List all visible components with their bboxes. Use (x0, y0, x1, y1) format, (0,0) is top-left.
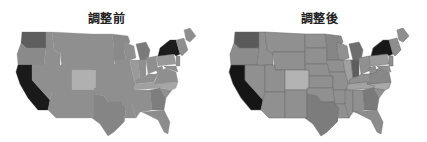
figure: 調整前 調整後 (0, 0, 427, 142)
state-nj (176, 56, 180, 66)
state-mi (136, 42, 150, 60)
state-az (48, 92, 72, 118)
state-nj (389, 56, 393, 66)
state-nd (92, 34, 114, 48)
panel-before: 調整前 (0, 0, 213, 142)
panel-title-after: 調整後 (213, 9, 426, 26)
state-wi (337, 42, 349, 60)
state-sd (305, 48, 327, 64)
state-ia (327, 60, 345, 72)
state-nm (72, 90, 94, 118)
state-mi (349, 42, 363, 60)
state-co (285, 70, 309, 90)
state-me (397, 28, 409, 42)
state-ne (92, 64, 118, 76)
panel-title-before: 調整前 (0, 9, 213, 26)
state-wa (21, 32, 46, 48)
us-map-before (0, 28, 213, 138)
state-wy (273, 52, 305, 70)
state-wa (234, 32, 259, 48)
state-sd (92, 48, 114, 64)
state-ne (305, 64, 331, 76)
state-wi (124, 42, 136, 60)
panel-after: 調整後 (213, 0, 426, 142)
state-nm (285, 90, 307, 118)
state-fl (142, 110, 170, 134)
state-wy (60, 52, 92, 70)
state-oh (146, 56, 158, 74)
state-ks (96, 76, 120, 88)
state-fl (355, 110, 383, 134)
state-co (72, 70, 96, 90)
state-mt (265, 32, 305, 54)
state-mt (52, 32, 92, 54)
state-ks (309, 76, 333, 88)
state-az (261, 92, 285, 118)
state-ia (114, 60, 132, 72)
state-me (184, 28, 196, 42)
state-nd (305, 34, 327, 48)
us-map-after (213, 28, 426, 138)
state-oh (359, 56, 371, 74)
